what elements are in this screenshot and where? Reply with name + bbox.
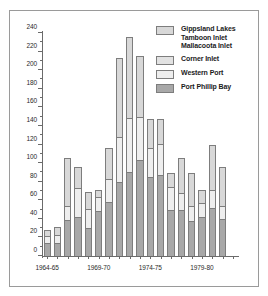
bar-segment	[136, 117, 143, 161]
x-axis-tick	[161, 256, 162, 259]
legend-item-label: Gippsland Lakes Tamboon Inlet Mallacoota…	[181, 25, 236, 51]
bar-segment	[157, 175, 164, 256]
y-axis-tick	[40, 171, 42, 172]
bar-segment	[136, 160, 143, 256]
x-axis-tick	[130, 256, 131, 259]
x-axis-tick	[109, 256, 110, 259]
bar-segment	[44, 236, 51, 243]
bar-segment	[147, 148, 154, 177]
bar-segment	[157, 144, 164, 176]
y-axis-tick	[40, 153, 42, 154]
bar-segment	[116, 137, 123, 182]
bar-segment	[198, 217, 205, 256]
x-axis-tick	[57, 256, 58, 259]
legend-item: Gippsland Lakes Tamboon Inlet Mallacoota…	[156, 25, 254, 51]
bar-segment	[178, 193, 185, 211]
x-axis-tick	[212, 256, 213, 259]
stacked-bar	[74, 167, 81, 256]
x-axis-tick	[68, 256, 69, 259]
legend-item: Corner Inlet	[156, 55, 254, 65]
y-axis-tick	[38, 125, 42, 126]
x-axis-tick	[192, 256, 193, 259]
y-axis-tick	[40, 78, 42, 79]
y-axis-label: 80	[30, 171, 37, 178]
bar-segment	[74, 167, 81, 188]
y-axis-tick	[40, 190, 42, 191]
bar-segment	[116, 182, 123, 256]
bar-segment	[95, 197, 102, 212]
bar-segment	[64, 220, 71, 256]
x-axis-tick	[119, 256, 120, 259]
stacked-bar	[178, 158, 185, 256]
x-axis-tick	[181, 256, 182, 259]
y-axis-label: 60	[30, 190, 37, 197]
y-axis-label: 220	[26, 41, 37, 48]
x-axis-label: 1964-65	[36, 264, 59, 271]
y-axis-tick	[40, 41, 42, 42]
stacked-bar	[209, 145, 216, 257]
y-axis-label: 240	[26, 23, 37, 30]
bar-segment	[85, 192, 92, 209]
bar-segment	[85, 209, 92, 229]
stacked-bar	[157, 118, 164, 256]
legend-item: Western Port	[156, 69, 254, 79]
legend-item-label: Western Port	[181, 69, 223, 78]
bar-segment	[126, 37, 133, 118]
bar-segment	[95, 190, 102, 197]
bar-segment	[188, 206, 195, 221]
y-axis-tick	[40, 134, 42, 135]
x-axis-label: 1974-75	[139, 264, 162, 271]
bar-segment	[44, 230, 51, 236]
stacked-bar	[105, 148, 112, 256]
gippsland-lakes-swatch	[156, 26, 174, 35]
bar-segment	[178, 210, 185, 256]
y-axis-tick	[40, 246, 42, 247]
y-axis-label: 0	[33, 246, 37, 253]
y-axis-tick	[38, 162, 42, 163]
y-axis-tick	[40, 97, 42, 98]
x-axis-tick	[150, 256, 151, 259]
x-axis-tick	[88, 256, 89, 259]
bar-segment	[209, 190, 216, 208]
chart-legend: Gippsland Lakes Tamboon Inlet Mallacoota…	[156, 25, 254, 97]
y-axis-label: 40	[30, 208, 37, 215]
stacked-bar	[44, 230, 51, 256]
bar-segment	[105, 148, 112, 179]
bar-segment	[167, 187, 174, 209]
bar-segment	[167, 173, 174, 187]
y-axis-label: 100	[26, 153, 37, 160]
x-axis-tick	[78, 256, 79, 259]
stacked-bar	[116, 58, 123, 256]
y-axis-tick	[38, 144, 42, 145]
x-axis-tick	[171, 256, 172, 259]
y-axis-tick	[38, 32, 42, 33]
y-axis-tick	[38, 51, 42, 52]
x-axis-tick	[47, 256, 48, 259]
bar-segment	[136, 56, 143, 116]
stacked-bar	[167, 173, 174, 256]
corner-inlet-swatch	[156, 56, 174, 65]
x-axis-tick	[99, 256, 100, 259]
y-axis-label: 160	[26, 97, 37, 104]
y-axis-tick	[40, 209, 42, 210]
stacked-bar	[95, 190, 102, 256]
y-axis-tick	[38, 181, 42, 182]
stacked-bar	[188, 173, 195, 256]
legend-item: Port Phillip Bay	[156, 83, 254, 93]
bar-segment	[126, 172, 133, 256]
legend-item-label: Port Phillip Bay	[181, 83, 231, 92]
stacked-bar	[85, 192, 92, 256]
bar-segment	[44, 243, 51, 256]
bar-segment	[126, 118, 133, 173]
y-axis-tick	[38, 236, 42, 237]
bar-segment	[147, 119, 154, 148]
y-axis-tick	[40, 60, 42, 61]
bar-segment	[147, 177, 154, 256]
y-axis-tick	[38, 199, 42, 200]
bar-segment	[198, 190, 205, 203]
bar-segment	[209, 208, 216, 256]
y-axis-tick	[38, 106, 42, 107]
stacked-bar	[147, 119, 154, 256]
y-axis-tick	[40, 227, 42, 228]
y-axis-label: 120	[26, 134, 37, 141]
